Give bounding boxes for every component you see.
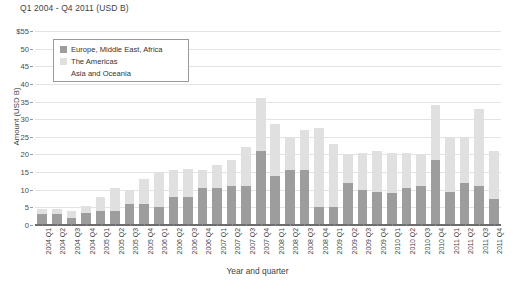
legend-item[interactable]: Asia and Oceania	[60, 68, 183, 80]
bar-group[interactable]	[198, 31, 208, 225]
bar-segment	[96, 197, 106, 211]
bar-group[interactable]	[37, 31, 47, 225]
bar-segment	[256, 98, 266, 151]
bar-segment	[52, 209, 62, 214]
x-axis-ticks: 2004 Q12004 Q22004 Q32004 Q42005 Q12005 …	[35, 226, 501, 266]
bar-group[interactable]	[460, 31, 470, 225]
x-tick-mark	[494, 224, 495, 226]
bar-segment	[460, 183, 470, 225]
y-tick-mark	[30, 137, 33, 138]
x-tick-mark	[101, 224, 102, 226]
bar-segment	[139, 204, 149, 225]
bar-segment	[416, 154, 426, 186]
x-tick-label: 2011 Q4	[496, 228, 503, 254]
y-tick-mark	[30, 84, 33, 85]
x-tick-label: 2010 Q1	[394, 228, 401, 254]
bar-segment	[431, 160, 441, 225]
bar-group[interactable]	[489, 31, 499, 225]
x-tick-mark	[42, 224, 43, 226]
bar-segment	[110, 211, 120, 225]
bar-group[interactable]	[431, 31, 441, 225]
bar-group[interactable]	[372, 31, 382, 225]
legend-item[interactable]: The Americas	[60, 56, 183, 68]
y-tick-label: 50	[21, 44, 29, 53]
x-tick-label: 2011 Q2	[467, 228, 474, 254]
y-tick-label: 10	[21, 185, 29, 194]
y-tick-label: $55	[16, 27, 29, 36]
y-tick-mark	[30, 172, 33, 173]
bar-segment	[431, 105, 441, 160]
bar-segment	[169, 197, 179, 225]
bar-group[interactable]	[314, 31, 324, 225]
bar-segment	[358, 190, 368, 225]
bar-segment	[300, 130, 310, 171]
bar-segment	[81, 206, 91, 213]
bar-segment	[402, 153, 412, 188]
y-axis-ticks: $5550454035302520151050	[0, 31, 33, 225]
bar-group[interactable]	[300, 31, 310, 225]
bar-segment	[270, 176, 280, 225]
bar-segment	[314, 207, 324, 225]
x-tick-mark	[202, 224, 203, 226]
x-tick-label: 2006 Q2	[176, 228, 183, 254]
legend-label: The Americas	[71, 58, 117, 66]
bar-segment	[416, 186, 426, 225]
y-tick-mark	[30, 119, 33, 120]
x-tick-label: 2004 Q1	[45, 228, 52, 254]
bar-segment	[37, 209, 47, 214]
bar-group[interactable]	[358, 31, 368, 225]
bar-group[interactable]	[387, 31, 397, 225]
bar-segment	[96, 211, 106, 225]
x-tick-label: 2005 Q1	[103, 228, 110, 254]
bar-group[interactable]	[416, 31, 426, 225]
x-tick-label: 2006 Q3	[191, 228, 198, 254]
x-tick-mark	[421, 224, 422, 226]
bar-segment	[329, 144, 339, 207]
bar-segment	[387, 193, 397, 225]
x-tick-label: 2010 Q3	[424, 228, 431, 254]
x-tick-mark	[450, 224, 451, 226]
bar-group[interactable]	[256, 31, 266, 225]
x-tick-mark	[363, 224, 364, 226]
y-tick-label: 25	[21, 132, 29, 141]
x-tick-label: 2004 Q3	[74, 228, 81, 254]
x-tick-mark	[290, 224, 291, 226]
bar-segment	[387, 153, 397, 194]
x-tick-mark	[377, 224, 378, 226]
legend-item[interactable]: Europe, Middle East, Africa	[60, 44, 183, 56]
bar-group[interactable]	[402, 31, 412, 225]
x-tick-label: 2004 Q2	[59, 228, 66, 254]
bar-segment	[67, 211, 77, 218]
bar-group[interactable]	[212, 31, 222, 225]
bar-group[interactable]	[227, 31, 237, 225]
x-tick-label: 2007 Q3	[249, 228, 256, 254]
x-tick-label: 2010 Q4	[438, 228, 445, 254]
bar-group[interactable]	[445, 31, 455, 225]
bar-group[interactable]	[329, 31, 339, 225]
x-tick-mark	[115, 224, 116, 226]
x-tick-mark	[246, 224, 247, 226]
chart-legend: Europe, Middle East, AfricaThe AmericasA…	[53, 39, 189, 82]
x-tick-mark	[435, 224, 436, 226]
bar-segment	[212, 188, 222, 225]
bar-group[interactable]	[241, 31, 251, 225]
x-tick-label: 2006 Q1	[161, 228, 168, 254]
bar-segment	[198, 170, 208, 188]
y-tick-mark	[30, 31, 33, 32]
bar-group[interactable]	[343, 31, 353, 225]
x-tick-mark	[348, 224, 349, 226]
bar-group[interactable]	[474, 31, 484, 225]
stacked-bar-chart: Q1 2004 - Q4 2011 (USD B) Amount (USD B)…	[0, 0, 515, 287]
bar-segment	[474, 186, 484, 225]
y-tick-label: 20	[21, 150, 29, 159]
y-tick-label: 5	[25, 203, 29, 212]
x-tick-mark	[479, 224, 480, 226]
bar-group[interactable]	[270, 31, 280, 225]
bar-group[interactable]	[285, 31, 295, 225]
y-tick-label: 0	[25, 221, 29, 230]
x-tick-label: 2007 Q1	[220, 228, 227, 254]
x-tick-label: 2006 Q4	[205, 228, 212, 254]
x-tick-mark	[130, 224, 131, 226]
bar-segment	[139, 179, 149, 204]
legend-label: Asia and Oceania	[71, 70, 131, 78]
